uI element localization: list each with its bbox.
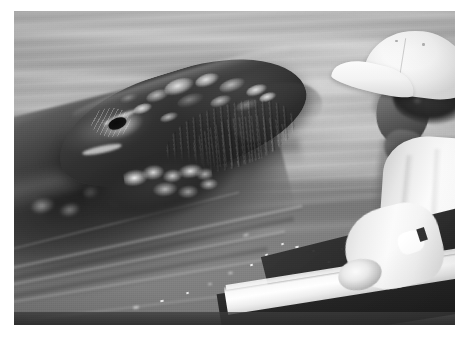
photo-frame: [0, 0, 471, 340]
baseball-cap-eyelet-2: [422, 43, 424, 45]
foam-speck-11: [159, 300, 163, 303]
boat-bottom-edge: [14, 312, 455, 325]
photograph: [14, 11, 455, 325]
